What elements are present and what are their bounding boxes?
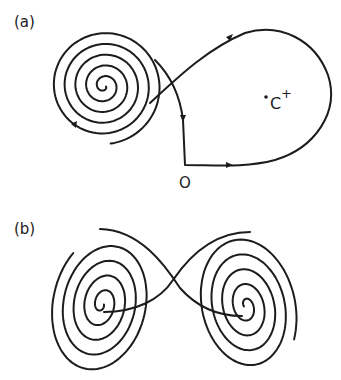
spiral-b-right [201, 240, 297, 365]
panel-b: (b) [14, 220, 297, 369]
fixed-point-dot [264, 95, 268, 99]
panel-a: (a) O C + [14, 13, 331, 192]
spiral-a [54, 33, 160, 143]
panel-b-label: (b) [14, 220, 35, 238]
arrow-icon [226, 162, 233, 168]
connector-right-to-left [100, 229, 242, 316]
fixed-point-label: C [270, 94, 281, 113]
arrow-icon [180, 115, 186, 122]
homoclinic-loop [150, 30, 331, 166]
panel-a-label: (a) [14, 13, 35, 31]
origin-label: O [179, 174, 191, 192]
fixed-point-sup: + [281, 86, 292, 101]
diagram-canvas: (a) O C + (b) [0, 0, 341, 380]
